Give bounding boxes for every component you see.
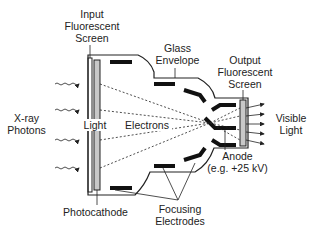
xray-photons-label: X-ray Photons [4, 112, 49, 136]
glass-envelope-label: Glass Envelope [150, 42, 205, 66]
label-line: Focusing [150, 203, 210, 215]
label-line: Envelope [150, 54, 205, 66]
anode-label: Anode (e.g. +25 kV) [200, 150, 275, 174]
label-line: Visible [270, 112, 312, 124]
output-screen [240, 100, 246, 146]
label-line: Electrodes [150, 215, 210, 227]
visible-light-label: Visible Light [270, 112, 312, 136]
label-line: Input [62, 8, 122, 20]
label-line: Fluorescent [215, 66, 275, 78]
label-line: Fluorescent [62, 20, 122, 32]
light-label: Light [80, 119, 110, 131]
xray-photons [55, 83, 79, 169]
label-line: (e.g. +25 kV) [200, 162, 275, 174]
label-line: Screen [215, 78, 275, 90]
focusing-electrodes-label: Focusing Electrodes [150, 203, 210, 227]
label-line: Anode [200, 150, 275, 162]
input-screen-label: Input Fluorescent Screen [62, 8, 122, 44]
label-line: X-ray [4, 112, 49, 124]
visible-light-arrows [246, 104, 264, 144]
label-line: Glass [150, 42, 205, 54]
output-screen-label: Output Fluorescent Screen [215, 54, 275, 90]
label-line: Screen [62, 32, 122, 44]
electrons-label: Electrons [122, 119, 172, 131]
label-line: Light [270, 124, 312, 136]
label-line: Photons [4, 124, 49, 136]
photocathode-label: Photocathode [58, 206, 133, 218]
label-line: Output [215, 54, 275, 66]
